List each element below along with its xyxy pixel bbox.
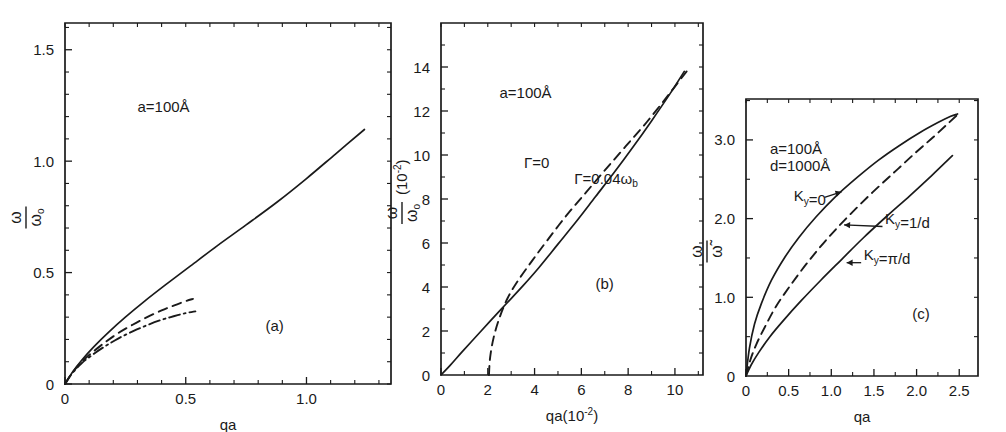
annotation: Ky=0: [794, 187, 826, 208]
plot-a: 00.51.000.51.01.5a=100Å(a)qaωωo: [7, 23, 391, 432]
y-tick-label: 2: [422, 323, 430, 340]
axis-frame: [65, 23, 391, 384]
x-tick-label: 0.5: [778, 382, 799, 399]
x-tick-label: 6: [577, 381, 585, 398]
y-tick-label: 12: [413, 103, 430, 120]
origin-label: 0: [727, 368, 735, 385]
panel-b-plot: 024681024681012140a=100Å(b)Γ=0Γ=0.04ωbqa…: [370, 0, 720, 432]
svg-text:(10-2): (10-2): [392, 159, 410, 195]
annotation: a=100Å: [770, 140, 822, 157]
y-axis-label: ωω̃: [688, 239, 725, 262]
y-tick-label: 0: [46, 376, 54, 393]
y-tick-label: 1.5: [33, 41, 54, 58]
panel-c-plot: 00.51.01.52.02.51.02.03.00a=100Åd=1000ÅK…: [690, 0, 1006, 432]
y-tick-label: 14: [413, 59, 430, 76]
plot-c: 00.51.01.52.02.51.02.03.00a=100Åd=1000ÅK…: [688, 99, 978, 425]
y-tick-label: 8: [422, 191, 430, 208]
annotation: a=100Å: [137, 98, 189, 115]
figure-root: 00.51.000.51.01.5a=100Å(a)qaωωo 02468102…: [0, 0, 1006, 432]
annotation: (c): [912, 305, 930, 322]
x-tick-label: 1.5: [864, 382, 885, 399]
y-tick-label: 6: [422, 235, 430, 252]
svg-text:ωo: ωo: [403, 204, 422, 223]
curve-dash-dot-curve: [65, 311, 195, 384]
x-tick-label: 2: [484, 381, 492, 398]
svg-text:ω: ω: [688, 245, 705, 258]
annotation: (b): [595, 275, 613, 292]
svg-text:ω: ω: [7, 211, 24, 224]
svg-text:ωo: ωo: [27, 208, 46, 227]
x-tick-label: 2.0: [906, 382, 927, 399]
annotation: Γ=0.04ωb: [574, 170, 638, 190]
x-tick-label: 8: [624, 381, 632, 398]
curve-ky-pi-d-curve: [746, 156, 952, 376]
annotation: Ky=π/d: [864, 246, 911, 267]
x-axis-label: qa(10-2): [546, 406, 598, 424]
annotation: (a): [265, 317, 283, 334]
svg-text:ω: ω: [383, 207, 400, 220]
annotation: Ky=1/d: [885, 210, 930, 231]
curve-gamma-damped-curve: [489, 71, 687, 375]
curve-dashed-curve: [65, 299, 193, 384]
x-tick-label: 0: [437, 381, 445, 398]
y-tick-label: 10: [413, 147, 430, 164]
axis-frame: [441, 23, 703, 375]
x-tick-label: 0: [742, 382, 750, 399]
x-axis-label: qa: [220, 416, 237, 432]
x-tick-label: 10: [667, 381, 684, 398]
y-tick-label: 1.0: [714, 289, 735, 306]
panel-b: 024681024681012140a=100Å(b)Γ=0Γ=0.04ωbqa…: [370, 0, 720, 432]
plot-b: 024681024681012140a=100Å(b)Γ=0Γ=0.04ωbqa…: [383, 23, 703, 424]
panel-a-plot: 00.51.000.51.01.5a=100Å(a)qaωωo: [0, 0, 400, 432]
x-tick-label: 2.5: [949, 382, 970, 399]
x-axis-label: qa: [854, 408, 871, 425]
y-axis-label: ωωo(10-2): [383, 159, 422, 224]
svg-text:ω̃: ω̃: [708, 239, 725, 257]
annotation: Γ=0: [524, 154, 549, 171]
x-tick-label: 0: [61, 390, 69, 407]
y-tick-label: 1.0: [33, 153, 54, 170]
annotation: d=1000Å: [770, 157, 830, 174]
curve-gamma-zero-curve: [441, 71, 684, 375]
origin-label: 0: [422, 367, 430, 384]
x-tick-label: 1.0: [296, 390, 317, 407]
curve-solid-curve: [65, 130, 364, 384]
y-tick-label: 4: [422, 279, 430, 296]
y-axis-label: ωωo: [7, 207, 46, 229]
panel-a: 00.51.000.51.01.5a=100Å(a)qaωωo: [0, 0, 400, 432]
y-tick-label: 2.0: [714, 210, 735, 227]
y-tick-label: 3.0: [714, 131, 735, 148]
x-tick-label: 0.5: [175, 390, 196, 407]
y-tick-label: 0.5: [33, 264, 54, 281]
x-tick-label: 4: [530, 381, 538, 398]
x-tick-label: 1.0: [821, 382, 842, 399]
annotation: a=100Å: [499, 84, 551, 101]
panel-c: 00.51.01.52.02.51.02.03.00a=100Åd=1000ÅK…: [690, 0, 1006, 432]
